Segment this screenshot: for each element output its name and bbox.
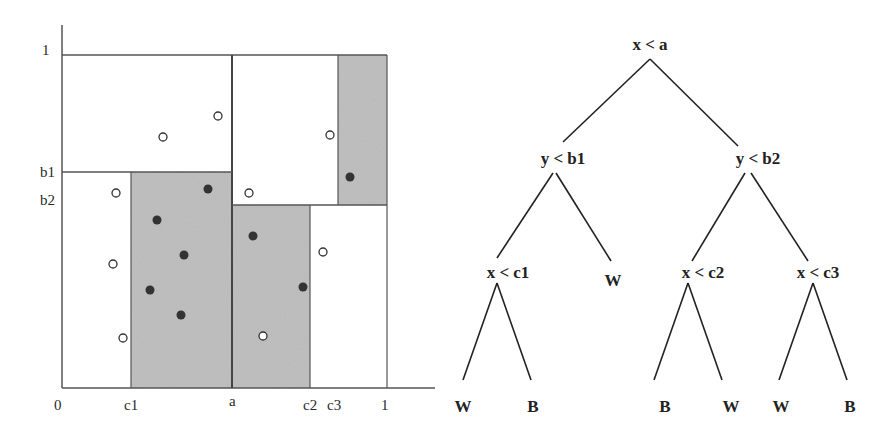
edge [751, 173, 808, 261]
open-point [214, 112, 222, 120]
texture [232, 205, 310, 388]
edge [497, 283, 531, 380]
x-tick-c1: c1 [124, 397, 138, 413]
filled-point [177, 311, 186, 320]
edge [813, 283, 847, 380]
edge [692, 173, 745, 261]
x-tick-a: a [229, 393, 236, 409]
x-tick-0: 0 [54, 397, 62, 413]
open-point [326, 131, 334, 139]
edge [654, 283, 688, 380]
y-tick-b1: b1 [40, 164, 55, 180]
node-x-lt-c3: x < c3 [797, 263, 840, 282]
open-point [109, 260, 117, 268]
y-tick-b2: b2 [40, 192, 55, 208]
node-x-lt-c1: x < c1 [487, 263, 530, 282]
decision-tree-figure: 1 b1 b2 0 c1 a c2 c3 1 [0, 0, 893, 433]
filled-point [299, 283, 308, 292]
texture [338, 55, 387, 205]
open-point [112, 189, 120, 197]
node-y-lt-b2: y < b2 [736, 149, 781, 168]
texture [131, 172, 232, 388]
edge [650, 59, 738, 146]
open-point [259, 332, 267, 340]
edge [779, 283, 813, 380]
open-point [119, 334, 127, 342]
filled-point [146, 286, 155, 295]
decision-tree [463, 59, 847, 380]
edge [497, 173, 553, 258]
leaf-w: W [723, 397, 740, 416]
open-point [319, 248, 327, 256]
leaf-w: W [773, 397, 790, 416]
filled-point [204, 185, 213, 194]
leaf-w: W [605, 271, 622, 290]
filled-point [153, 216, 162, 225]
node-x-lt-c2: x < c2 [682, 263, 725, 282]
x-tick-c3: c3 [327, 397, 341, 413]
edge [463, 283, 497, 380]
tree-labels: x < a y < b1 y < b2 x < c1 W x < c2 x < … [455, 35, 856, 416]
edge [563, 59, 650, 142]
y-tick-1: 1 [42, 42, 50, 58]
leaf-b: B [527, 397, 538, 416]
x-tick-c2: c2 [303, 397, 317, 413]
leaf-b: B [659, 397, 670, 416]
leaf-w: W [455, 397, 472, 416]
node-y-lt-b1: y < b1 [541, 149, 586, 168]
edge [688, 283, 722, 380]
open-point [159, 133, 167, 141]
partition-plot: 1 b1 b2 0 c1 a c2 c3 1 [40, 25, 435, 413]
node-root: x < a [632, 35, 668, 54]
filled-point [180, 251, 189, 260]
leaf-b: B [844, 397, 855, 416]
edge [556, 173, 611, 261]
filled-point [346, 173, 355, 182]
filled-point [249, 232, 258, 241]
x-tick-1: 1 [381, 397, 389, 413]
open-point [245, 189, 253, 197]
